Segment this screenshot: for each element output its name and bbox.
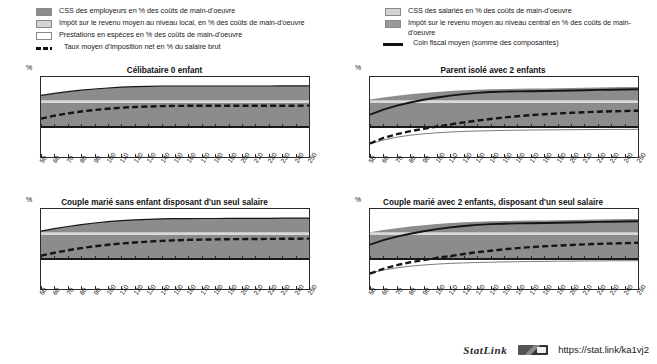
- swatch-dark-gray-icon: [36, 8, 52, 16]
- legend-item-central-income-tax: Impôt sur le revenu moyen au niveau cent…: [385, 18, 657, 37]
- series-lines: [370, 77, 638, 157]
- statlink-label: StatLink: [463, 344, 507, 356]
- legend-item-local-income-tax: Impôt sur le revenu moyen au niveau loca…: [36, 18, 366, 29]
- chart-panel-couple-marie-2-enfants: Couple marié avec 2 enfants, disposant d…: [329, 196, 657, 326]
- dashed-line-key-icon: [36, 44, 52, 52]
- plot-area: 50403020100-10-20-30: [40, 76, 310, 158]
- plot-area: 50403020100-10-20-30: [40, 208, 310, 290]
- series-lines: [370, 209, 638, 289]
- panel-title: Parent isolé avec 2 enfants: [329, 66, 657, 75]
- chart-panel-parent-isole-2-enfants: Parent isolé avec 2 enfants%50403020100-…: [329, 64, 657, 190]
- legend-item-cash-benefits: Prestations en espèces en % des coûts de…: [36, 30, 366, 41]
- statlink-url[interactable]: https://stat.link/ka1vj2: [558, 344, 649, 355]
- series-net-tax-rate: [370, 243, 638, 274]
- plot-area-wrapper: 50403020100-10-20-3050607080901001101201…: [40, 208, 310, 290]
- series-tax-wedge: [41, 218, 309, 231]
- legend-label: Coin fiscal moyen (somme des composantes…: [408, 38, 559, 48]
- series-net-tax-rate: [370, 111, 638, 144]
- x-axis-tick: [638, 256, 639, 259]
- swatch-light-gray-icon: [385, 8, 401, 16]
- legend-label: Taux moyen d'imposition net en % du sala…: [59, 42, 220, 52]
- panel-title: Couple marié sans enfant disposant d'un …: [0, 198, 329, 207]
- y-axis-unit-label: %: [26, 64, 32, 71]
- plot-area: 50403020100-10-20-30: [369, 208, 639, 290]
- legend-label: Impôt sur le revenu moyen au niveau loca…: [59, 18, 305, 28]
- plot-area-wrapper: 50403020100-10-20-3050607080901001101201…: [369, 208, 639, 290]
- solid-line-key-icon: [385, 40, 401, 48]
- legend-column-right: CSS des salariés en % des coûts de main-…: [385, 6, 657, 50]
- swatch-white-icon: [36, 32, 52, 40]
- x-axis-tick: [309, 124, 310, 127]
- legend-label: CSS des employeurs en % des coûts de mai…: [59, 6, 235, 16]
- y-axis-unit-label: %: [355, 196, 361, 203]
- legend-label: Impôt sur le revenu moyen au niveau cent…: [408, 18, 657, 37]
- legend-column-left: CSS des employeurs en % des coûts de mai…: [36, 6, 366, 54]
- series-tax-wedge: [370, 221, 638, 244]
- chart-panel-couple-marie-sans-enfant: Couple marié sans enfant disposant d'un …: [0, 196, 329, 326]
- chart-panel-celibataire-0-enfant: Célibataire 0 enfant%50403020100-10-20-3…: [0, 64, 329, 190]
- series-net-tax-rate: [41, 106, 309, 119]
- x-axis-tick: [638, 124, 639, 127]
- plot-area: 50403020100-10-20-30: [369, 76, 639, 158]
- statlink-footer: StatLink https://stat.link/ka1vj2: [0, 340, 657, 358]
- legend-item-net-tax-rate: Taux moyen d'imposition net en % du sala…: [36, 42, 366, 53]
- series-lines: [41, 77, 309, 157]
- panel-title: Couple marié avec 2 enfants, disposant d…: [329, 198, 657, 207]
- series-net-tax-rate: [41, 239, 309, 256]
- chart-legend: CSS des employeurs en % des coûts de mai…: [0, 6, 657, 60]
- legend-item-tax-wedge: Coin fiscal moyen (somme des composantes…: [385, 38, 657, 49]
- y-axis-unit-label: %: [26, 196, 32, 203]
- legend-label: CSS des salariés en % des coûts de main-…: [408, 6, 572, 16]
- plot-area-wrapper: 50403020100-10-20-3050607080901001101201…: [369, 76, 639, 158]
- legend-label: Prestations en espèces en % des coûts de…: [59, 30, 242, 40]
- series-tax-wedge: [41, 86, 309, 96]
- x-axis-tick: [309, 256, 310, 259]
- panel-title: Célibataire 0 enfant: [0, 66, 329, 75]
- y-axis-unit-label: %: [355, 64, 361, 71]
- swatch-light-gray-icon: [36, 20, 52, 28]
- legend-item-employer-ssc: CSS des employeurs en % des coûts de mai…: [36, 6, 366, 17]
- legend-item-employee-ssc: CSS des salariés en % des coûts de main-…: [385, 6, 657, 17]
- statlink-barcode-icon: [518, 345, 548, 355]
- plot-area-wrapper: 50403020100-10-20-3050607080901001101201…: [40, 76, 310, 158]
- swatch-mid-gray-icon: [385, 20, 401, 28]
- series-lines: [41, 209, 309, 289]
